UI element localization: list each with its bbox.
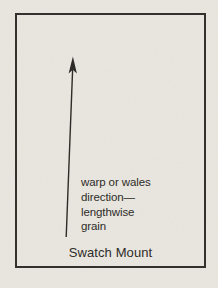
grain-direction-label-line: grain (81, 219, 151, 234)
grain-direction-label-line: direction— (81, 190, 151, 205)
grain-direction-label: warp or wales direction— lengthwise grai… (81, 175, 151, 234)
grain-direction-label-line: warp or wales (81, 175, 151, 190)
figure-caption: Swatch Mount (15, 245, 206, 260)
grain-direction-label-line: lengthwise (81, 205, 151, 220)
